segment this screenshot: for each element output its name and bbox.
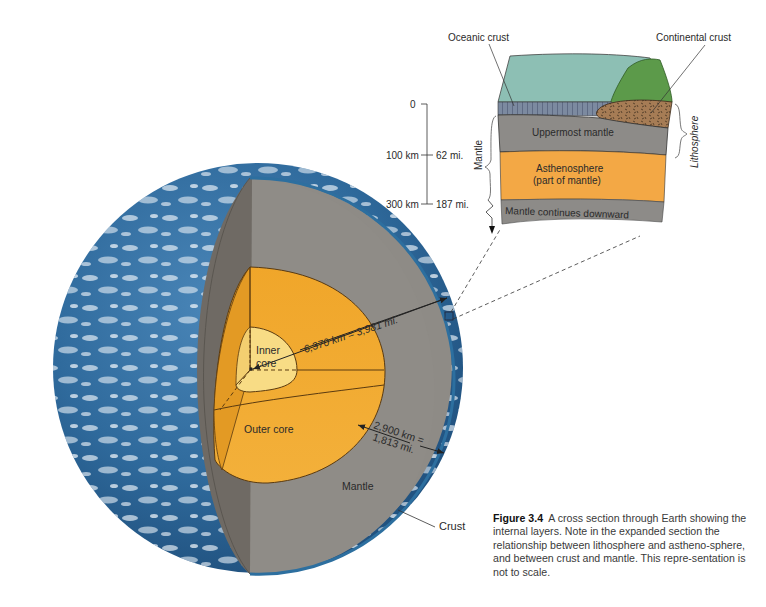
asthenosphere-label-2: (part of mantle) <box>533 175 601 186</box>
inner-core-label-2: core <box>256 357 277 369</box>
depth-tick-0: 0 <box>410 99 416 110</box>
crust-label: Crust <box>439 520 465 532</box>
depth-tick-100km: 100 km <box>386 150 419 161</box>
figure-number: Figure 3.4 <box>493 512 543 524</box>
uppermost-mantle-label: Uppermost mantle <box>532 127 614 138</box>
continental-crust-label: Continental crust <box>656 32 731 43</box>
oceanic-crust-label: Oceanic crust <box>448 32 509 43</box>
depth-tick-62mi: 62 mi. <box>436 150 463 161</box>
mantle-brace-label: Mantle <box>473 140 484 170</box>
depth-tick-187mi: 187 mi. <box>436 199 469 210</box>
inset-block-section <box>498 54 672 224</box>
mantle-label: Mantle <box>342 480 374 492</box>
depth-tick-300km: 300 km <box>386 199 419 210</box>
depth-scale: 0 100 km 62 mi. 300 km 187 mi. <box>386 99 469 210</box>
outer-core-label: Outer core <box>244 423 294 435</box>
earth-cross-section-figure: Inner core Outer core Mantle Crust 6,370… <box>0 0 766 607</box>
inner-core-label-1: Inner <box>256 344 280 356</box>
lithosphere-label: Lithosphere <box>689 115 700 168</box>
asthenosphere-label-1: Asthenosphere <box>536 163 604 174</box>
figure-caption: Figure 3.4 A cross section through Earth… <box>493 512 755 579</box>
